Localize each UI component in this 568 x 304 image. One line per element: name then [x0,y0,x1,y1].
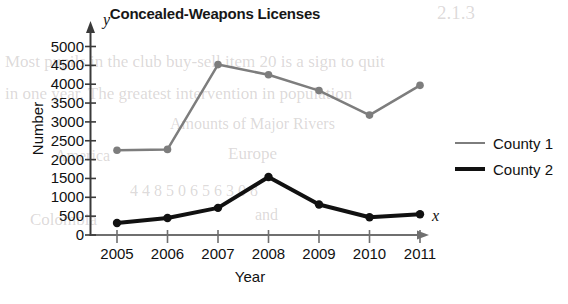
y-axis-title: Number [29,84,46,174]
legend-line-swatch [455,167,485,171]
legend-line-swatch [455,142,485,144]
legend-label: County 1 [493,135,553,152]
x-tick-label: 2008 [252,246,285,261]
x-tick-label: 2010 [353,246,386,261]
chart-legend: County 1County 2 [455,130,553,182]
chart-figure: 2.1.3Most pupils in the club buy-sell it… [0,0,568,304]
x-axis-title: Year [90,268,410,285]
legend-item[interactable]: County 1 [455,130,553,156]
legend-item[interactable]: County 2 [455,156,553,182]
x-tick-label: 2009 [302,246,335,261]
legend-label: County 2 [493,161,553,178]
x-tick-label: 2005 [100,246,133,261]
x-tick-label: 2011 [404,246,436,261]
x-tick-label: 2007 [201,246,234,261]
x-tick-label: 2006 [151,246,184,261]
